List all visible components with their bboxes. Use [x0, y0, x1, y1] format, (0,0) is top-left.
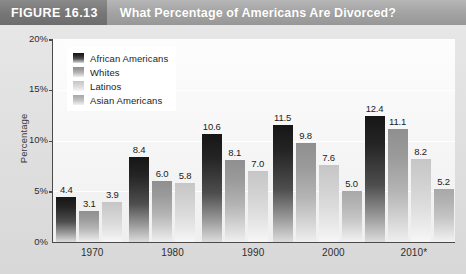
bar-slot: 7.0	[248, 39, 268, 242]
bar[interactable]: 5.0	[342, 191, 362, 242]
bar-value-label: 11.5	[274, 112, 291, 123]
bar-slot: 5.2	[434, 39, 454, 242]
legend-item: Latinos	[73, 80, 168, 92]
bar[interactable]: 5.8	[175, 183, 195, 242]
legend-item-label: Asian Americans	[90, 95, 162, 106]
bar[interactable]: 11.5	[273, 125, 293, 242]
figure-container: FIGURE 16.13 What Percentage of American…	[0, 0, 466, 274]
bar[interactable]: 6.0	[152, 181, 172, 242]
bar[interactable]: 12.4	[365, 116, 385, 242]
x-axis-tick-1980: 1980	[132, 247, 212, 258]
bar-value-label: 11.1	[389, 116, 406, 127]
x-axis-tick-1990: 1990	[213, 247, 293, 258]
bar-slot: 7.6	[319, 39, 339, 242]
bar-value-label: 8.4	[133, 144, 146, 155]
bar-value-label: 3.1	[83, 198, 96, 209]
bar-slot: 5.0	[342, 39, 362, 242]
y-axis-tick-0: 0%	[12, 237, 48, 247]
legend-item-label: Whites	[90, 67, 120, 78]
bar-value-label: 7.6	[322, 152, 335, 163]
bar-value-label: 3.9	[106, 189, 119, 200]
bar-value-label: 9.8	[299, 130, 312, 141]
y-axis-tick-15: 15%	[12, 84, 48, 94]
bar-slot: 8.1	[225, 39, 245, 242]
bar-value-label: 6.0	[156, 168, 169, 179]
bar-slot: 11.1	[388, 39, 408, 242]
bar-slot: 10.6	[202, 39, 222, 242]
y-axis-tick-20: 20%	[12, 34, 48, 44]
bar-value-label: 7.0	[251, 158, 264, 169]
swatch-african-americans	[73, 53, 84, 63]
bar[interactable]: 3.9	[102, 202, 122, 242]
bar-value-label: 5.2	[437, 176, 450, 187]
legend-item: Asian Americans	[73, 94, 168, 106]
bar[interactable]: 7.6	[319, 165, 339, 242]
bar-value-label: 4.4	[60, 184, 73, 195]
chart-area: Percentage 20% 15% 10% 5% 0% 4.43.13.98.…	[0, 25, 466, 274]
bar[interactable]: 11.1	[388, 129, 408, 242]
figure-number-badge: FIGURE 16.13	[0, 0, 107, 25]
bar[interactable]: 7.0	[248, 171, 268, 242]
bar-value-label: 5.8	[179, 170, 192, 181]
bar-group-2000: 11.59.87.65.0	[271, 39, 363, 242]
figure-title: What Percentage of Americans Are Divorce…	[107, 0, 396, 25]
bar[interactable]: 3.1	[79, 211, 99, 242]
x-axis-labels: 1970 1980 1990 2000 2010*	[52, 247, 454, 258]
legend-item-label: African Americans	[90, 53, 168, 64]
bar-group-1990: 10.68.17.0	[198, 39, 271, 242]
bar-value-label: 12.4	[366, 103, 384, 114]
x-axis-tick-2010: 2010*	[374, 247, 454, 258]
swatch-whites	[73, 67, 84, 77]
legend-item: Whites	[73, 66, 168, 78]
bar-slot: 5.8	[175, 39, 195, 242]
bar-value-label: 10.6	[203, 121, 221, 132]
bar-slot: 12.4	[365, 39, 385, 242]
bar-group-2010: 12.411.18.25.2	[363, 39, 455, 242]
bar-value-label: 8.1	[228, 147, 241, 158]
bar-slot: 9.8	[296, 39, 316, 242]
swatch-asian-americans	[73, 95, 84, 105]
bar-value-label: 8.2	[414, 146, 427, 157]
chart-legend: African AmericansWhitesLatinosAsian Amer…	[67, 47, 176, 111]
swatch-latinos	[73, 81, 84, 91]
bar[interactable]: 5.2	[434, 189, 454, 242]
plot-area: 4.43.13.98.46.05.810.68.17.011.59.87.65.…	[52, 39, 455, 243]
legend-item: African Americans	[73, 52, 168, 64]
bar[interactable]: 9.8	[296, 143, 316, 242]
bar[interactable]: 10.6	[202, 134, 222, 242]
y-axis-tick-5: 5%	[12, 186, 48, 196]
legend-item-label: Latinos	[90, 81, 121, 92]
y-axis-tick-10: 10%	[12, 135, 48, 145]
x-axis-tick-2000: 2000	[293, 247, 373, 258]
bar[interactable]: 4.4	[56, 197, 76, 242]
bar-value-label: 5.0	[345, 178, 358, 189]
bar[interactable]: 8.4	[129, 157, 149, 242]
bar[interactable]: 8.2	[411, 159, 431, 242]
figure-header: FIGURE 16.13 What Percentage of American…	[0, 0, 466, 25]
bar[interactable]: 8.1	[225, 160, 245, 242]
x-axis-tick-1970: 1970	[52, 247, 132, 258]
bar-slot: 11.5	[273, 39, 293, 242]
bar-slot: 8.2	[411, 39, 431, 242]
